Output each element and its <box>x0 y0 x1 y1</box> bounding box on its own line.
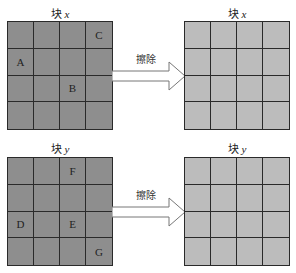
grid-cell <box>237 76 263 103</box>
grid-cell <box>185 76 211 103</box>
grid-cell <box>263 102 289 129</box>
grid-cell: G <box>86 238 112 265</box>
title-var: y <box>64 143 69 155</box>
grid-cell <box>185 185 211 212</box>
grid-cell <box>34 158 60 185</box>
grid-cell <box>263 212 289 239</box>
grid-cell <box>60 49 86 76</box>
title-prefix: 块 <box>51 143 62 155</box>
grid-cell <box>34 102 60 129</box>
grid-cell <box>8 22 34 49</box>
block-y-after-grid <box>184 157 290 266</box>
grid-cell <box>8 238 34 265</box>
block-y-before-title: 块 y <box>7 140 113 156</box>
grid-cell <box>237 102 263 129</box>
grid-cell <box>60 238 86 265</box>
grid-cell <box>8 185 34 212</box>
grid-cell <box>211 49 237 76</box>
grid-cell <box>86 76 112 103</box>
title-var: y <box>241 143 246 155</box>
title-var: x <box>64 8 69 20</box>
grid-cell <box>211 76 237 103</box>
grid-cell <box>86 158 112 185</box>
grid-cell <box>263 238 289 265</box>
grid-cell <box>263 76 289 103</box>
grid-cell: D <box>8 212 34 239</box>
block-x-after-grid <box>184 21 290 130</box>
block-x-before-title: 块 x <box>7 5 113 21</box>
grid-cell <box>185 22 211 49</box>
grid-cell <box>185 238 211 265</box>
grid-cell: E <box>60 212 86 239</box>
title-var: x <box>241 8 246 20</box>
grid-cell: C <box>86 22 112 49</box>
grid-cell <box>263 22 289 49</box>
grid-cell <box>211 185 237 212</box>
right-arrow-icon <box>112 196 187 228</box>
grid-cell <box>263 185 289 212</box>
grid-cell <box>34 22 60 49</box>
grid-cell <box>185 212 211 239</box>
grid-cell <box>86 49 112 76</box>
grid-cell <box>8 102 34 129</box>
grid-cell <box>211 158 237 185</box>
grid-cell <box>237 238 263 265</box>
title-prefix: 块 <box>51 8 62 20</box>
title-prefix: 块 <box>228 8 239 20</box>
grid-cell: A <box>8 49 34 76</box>
block-y-after-title: 块 y <box>184 140 290 156</box>
grid-cell <box>237 49 263 76</box>
grid-cell <box>237 22 263 49</box>
block-y-before-grid: FDEG <box>7 157 113 266</box>
grid-cell <box>263 158 289 185</box>
grid-cell <box>185 49 211 76</box>
grid-cell: F <box>60 158 86 185</box>
grid-cell <box>34 76 60 103</box>
grid-cell <box>8 76 34 103</box>
grid-cell <box>8 158 34 185</box>
grid-cell <box>211 212 237 239</box>
grid-cell <box>185 102 211 129</box>
grid-cell <box>34 212 60 239</box>
grid-cell <box>263 49 289 76</box>
grid-cell <box>34 238 60 265</box>
block-x-after-title: 块 x <box>184 5 290 21</box>
grid-cell <box>34 49 60 76</box>
right-arrow-icon <box>112 60 187 92</box>
grid-cell <box>211 102 237 129</box>
grid-cell <box>237 158 263 185</box>
grid-cell <box>60 185 86 212</box>
grid-cell <box>60 102 86 129</box>
grid-cell <box>237 185 263 212</box>
block-x-before-grid: CAB <box>7 21 113 130</box>
grid-cell <box>211 22 237 49</box>
grid-cell <box>34 185 60 212</box>
grid-cell <box>60 22 86 49</box>
grid-cell <box>86 185 112 212</box>
grid-cell <box>86 102 112 129</box>
title-prefix: 块 <box>228 143 239 155</box>
grid-cell <box>185 158 211 185</box>
grid-cell <box>211 238 237 265</box>
grid-cell <box>86 212 112 239</box>
grid-cell <box>237 212 263 239</box>
grid-cell: B <box>60 76 86 103</box>
